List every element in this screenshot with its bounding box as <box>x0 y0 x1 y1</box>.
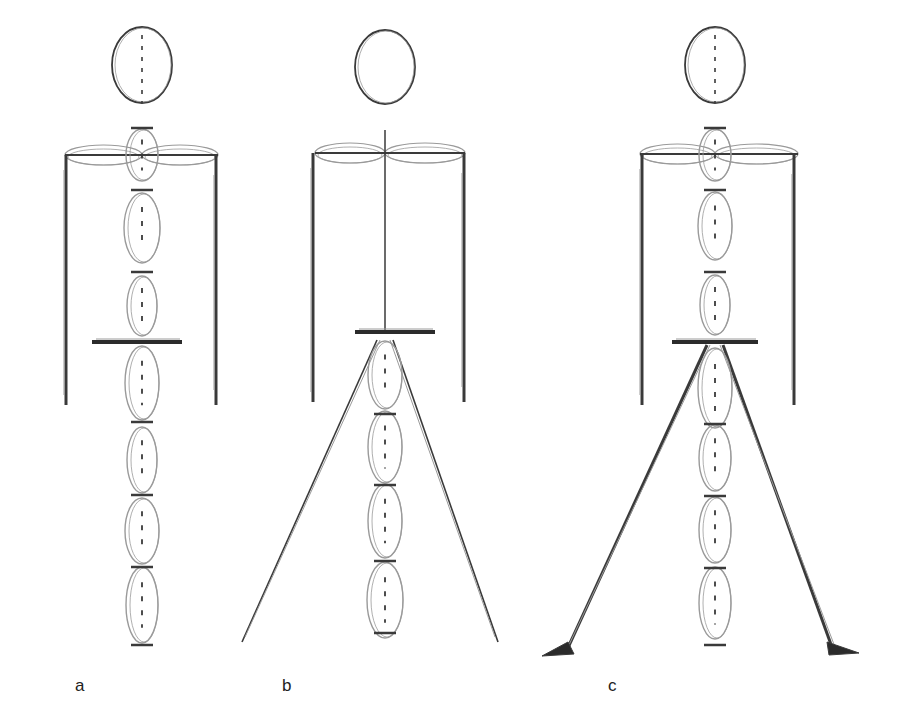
spine-segment <box>368 411 402 483</box>
spine-segment-sketch <box>702 349 732 427</box>
spine-segment <box>368 341 402 409</box>
spine-segment-sketch <box>130 568 158 642</box>
panel-label-c: c <box>608 676 617 696</box>
spine-segment <box>125 498 159 564</box>
spine-segment <box>698 192 732 260</box>
shoulder-loop-sketch <box>643 148 712 164</box>
spine-segment <box>367 562 403 638</box>
spine-segment-sketch <box>703 426 731 490</box>
shoulder-loop-sketch <box>318 147 382 163</box>
spine-segment <box>699 497 731 563</box>
head-oval <box>355 30 415 104</box>
shoulder-loop-sketch <box>68 149 139 165</box>
spine-segment <box>126 567 158 643</box>
spine-segment <box>125 346 159 420</box>
right-foot <box>827 642 859 655</box>
spine-segment-sketch <box>128 194 160 262</box>
spine-segment-sketch <box>703 568 731 638</box>
right-leg-sketch <box>720 345 835 647</box>
spine-segment <box>124 193 160 263</box>
head-oval-sketch <box>688 28 744 102</box>
figure-b <box>242 30 498 642</box>
figure-c <box>542 27 859 656</box>
spine-segment-sketch <box>371 563 403 637</box>
head-oval-sketch <box>358 31 414 103</box>
sketch-canvas <box>0 0 909 723</box>
left-foot <box>542 642 574 656</box>
spine-segment <box>699 567 731 639</box>
figure-a <box>64 27 218 645</box>
spine-segment <box>699 425 731 491</box>
spine-segment-sketch <box>131 428 157 492</box>
spine-segment-sketch <box>129 347 159 419</box>
left-leg <box>242 340 377 642</box>
spine-segment <box>698 348 732 428</box>
spine-segment-sketch <box>372 412 402 482</box>
panel-label-b: b <box>282 676 291 696</box>
shoulder-loop-sketch <box>718 148 795 164</box>
shoulder-loop-sketch <box>145 149 215 165</box>
panel-label-a: a <box>75 676 84 696</box>
spine-segment-sketch <box>702 193 732 259</box>
right-leg-sketch <box>390 340 495 637</box>
right-leg <box>393 340 498 642</box>
left-leg-sketch <box>568 345 710 647</box>
spine-segment-sketch <box>131 277 157 335</box>
spine-segment-sketch <box>129 499 159 563</box>
spine-segment-sketch <box>703 498 731 562</box>
head-oval-sketch <box>115 28 171 102</box>
spine-segment <box>368 484 402 558</box>
spine-segment-sketch <box>372 342 402 408</box>
spine-segment-sketch <box>372 485 402 557</box>
shoulder-loop-sketch <box>388 147 462 163</box>
spine-segment-sketch <box>703 130 731 180</box>
spine-segment <box>127 427 157 493</box>
spine-segment-sketch <box>704 276 730 334</box>
